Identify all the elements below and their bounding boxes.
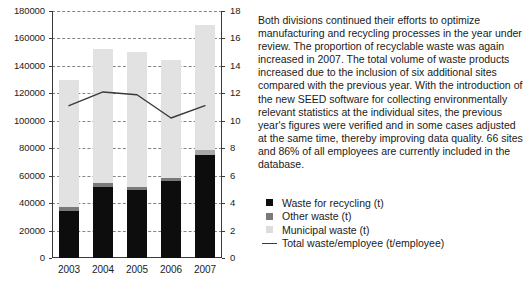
legend-swatch-recycling-icon (258, 199, 280, 206)
y-axis-right-label: 18 (230, 6, 240, 16)
y-axis-right-label: 14 (230, 61, 240, 71)
chart-panel: 0200004000060000800001000001200001400001… (0, 0, 250, 297)
legend-label-total-per-employee: Total waste/employee (t/employee) (280, 237, 444, 249)
line-series-total-waste-per-employee (52, 11, 222, 258)
chart-page: 0200004000060000800001000001200001400001… (0, 0, 531, 297)
legend-swatch-line-icon (258, 243, 280, 244)
legend-label-recycling: Waste for recycling (t) (280, 197, 384, 209)
y-axis-left-label: 60000 (0, 171, 45, 181)
y-axis-right-label: 6 (230, 171, 235, 181)
y-axis-right-label: 4 (230, 198, 235, 208)
y-tick-right (222, 231, 225, 232)
y-axis-left-label: 160000 (0, 33, 45, 43)
legend-item-waste-for-recycling: Waste for recycling (t) (258, 196, 518, 210)
y-axis-right-label: 12 (230, 88, 240, 98)
y-axis-left-label: 180000 (0, 6, 45, 16)
x-tick-label-2007: 2007 (187, 264, 223, 275)
chart-legend: Waste for recycling (t) Other waste (t) … (258, 196, 518, 250)
x-tick-label-2003: 2003 (51, 264, 87, 275)
y-axis-left-label: 120000 (0, 88, 45, 98)
x-tick-label-2004: 2004 (85, 264, 121, 275)
y-axis-right-label: 16 (230, 33, 240, 43)
y-axis-right-label: 2 (230, 226, 235, 236)
y-tick-right (222, 176, 225, 177)
y-tick-right (222, 148, 225, 149)
y-tick-right (222, 11, 225, 12)
y-axis-left-label: 100000 (0, 116, 45, 126)
x-tick-label-2006: 2006 (153, 264, 189, 275)
legend-label-other: Other waste (t) (280, 210, 351, 222)
y-axis-right-label: 10 (230, 116, 240, 126)
y-axis-right-label: 8 (230, 143, 235, 153)
y-tick-right (222, 258, 225, 259)
description-text: Both divisions continued their efforts t… (258, 14, 526, 171)
y-axis-left-label: 80000 (0, 143, 45, 153)
y-tick-right (222, 121, 225, 122)
y-tick-right (222, 93, 225, 94)
legend-label-municipal: Municipal waste (t) (280, 224, 370, 236)
y-axis-left-label: 40000 (0, 198, 45, 208)
y-tick-right (222, 66, 225, 67)
y-tick-right (222, 38, 225, 39)
legend-swatch-other-icon (258, 213, 280, 220)
y-axis-right-label: 0 (230, 253, 235, 263)
y-axis-left-label: 20000 (0, 226, 45, 236)
y-axis-left-label: 0 (0, 253, 45, 263)
legend-item-other-waste: Other waste (t) (258, 210, 518, 224)
y-axis-left-label: 140000 (0, 61, 45, 71)
legend-item-municipal-waste: Municipal waste (t) (258, 223, 518, 237)
y-tick-left (49, 258, 52, 259)
x-tick-label-2005: 2005 (119, 264, 155, 275)
legend-swatch-municipal-icon (258, 226, 280, 233)
y-tick-right (222, 203, 225, 204)
plot-area (52, 11, 222, 258)
legend-item-total-waste-per-employee: Total waste/employee (t/employee) (258, 237, 518, 251)
